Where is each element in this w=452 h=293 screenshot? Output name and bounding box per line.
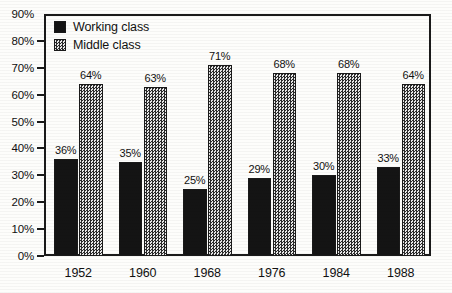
bar-value-label: 33% (378, 152, 399, 164)
bar-working-class-1960 (119, 162, 143, 256)
y-tick-label: 80% (12, 35, 34, 47)
bar-group: 30%68% (302, 14, 367, 256)
bar-group: 29%68% (238, 14, 303, 256)
legend-label-middle-class: Middle class (73, 38, 141, 52)
checker-gray-swatch-icon (54, 39, 66, 51)
y-tick-mark (37, 255, 44, 257)
y-tick-mark (37, 67, 44, 69)
bar-middle-class-1960 (144, 87, 168, 256)
x-tick-label-1988: 1988 (387, 266, 414, 280)
bar-working-class-1952 (54, 159, 78, 256)
y-tick-label: 50% (12, 116, 34, 128)
bar-value-label: 63% (145, 72, 166, 84)
y-tick-label: 20% (12, 196, 34, 208)
y-tick-label: 60% (12, 89, 34, 101)
y-tick-mark (37, 94, 44, 96)
bar-value-label: 64% (403, 69, 424, 81)
bar-middle-class-1984 (337, 73, 361, 256)
bar-value-label: 30% (313, 160, 334, 172)
x-tick-label-1960: 1960 (129, 266, 156, 280)
y-tick-label: 10% (12, 223, 34, 235)
bar-middle-class-1952 (79, 84, 103, 256)
y-tick-label: 30% (12, 169, 34, 181)
bar-working-class-1976 (248, 178, 272, 256)
bar-group: 33%64% (367, 14, 432, 256)
bar-value-label: 36% (55, 144, 76, 156)
x-tick-label-1984: 1984 (323, 266, 350, 280)
x-tick-label-1976: 1976 (258, 266, 285, 280)
y-tick-mark (37, 201, 44, 203)
bar-working-class-1984 (312, 175, 336, 256)
legend-label-working-class: Working class (73, 20, 149, 34)
legend-item-working-class: Working class (54, 19, 149, 34)
bar-value-label: 68% (274, 58, 295, 70)
bar-middle-class-1968 (208, 65, 232, 256)
x-axis: 195219601968197619841988 (44, 258, 431, 292)
y-tick-mark (37, 40, 44, 42)
y-tick-mark (37, 147, 44, 149)
bar-working-class-1968 (183, 189, 207, 256)
bar-chart-figure: 0%10%20%30%40%50%60%70%80%90% 36%64%35%6… (0, 0, 452, 293)
bar-working-class-1988 (377, 167, 401, 256)
chart-legend: Working class Middle class (54, 19, 149, 52)
bar-value-label: 68% (338, 58, 359, 70)
y-tick-label: 70% (12, 62, 34, 74)
x-tick-label-1968: 1968 (194, 266, 221, 280)
x-tick-label-1952: 1952 (65, 266, 92, 280)
y-tick-mark (37, 228, 44, 230)
bar-value-label: 71% (209, 50, 230, 62)
bar-middle-class-1976 (273, 73, 297, 256)
legend-item-middle-class: Middle class (54, 37, 149, 52)
bar-value-label: 64% (80, 69, 101, 81)
y-tick-label: 0% (18, 250, 34, 262)
y-tick-mark (37, 121, 44, 123)
bar-value-label: 25% (184, 174, 205, 186)
bar-group: 25%71% (173, 14, 238, 256)
bar-middle-class-1988 (402, 84, 426, 256)
y-tick-label: 40% (12, 142, 34, 154)
y-axis: 0%10%20%30%40%50%60%70%80%90% (0, 14, 44, 258)
y-tick-label: 90% (12, 8, 34, 20)
y-tick-mark (37, 174, 44, 176)
solid-black-swatch-icon (54, 21, 66, 33)
bar-value-label: 29% (249, 163, 270, 175)
bar-value-label: 35% (120, 147, 141, 159)
